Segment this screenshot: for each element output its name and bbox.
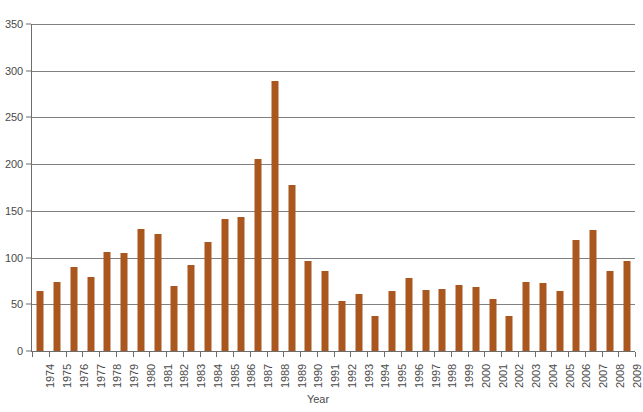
bar[interactable]: [271, 81, 278, 351]
x-tick-mark: [166, 352, 167, 357]
x-tick-mark: [585, 352, 586, 357]
x-tick-label: 1988: [280, 364, 291, 388]
x-tick-label: 2001: [498, 364, 509, 388]
bar-slot: [367, 24, 384, 351]
bar-slot: [267, 24, 284, 351]
x-tick-label: 1975: [62, 364, 73, 388]
bar[interactable]: [171, 286, 178, 351]
bar-slot: [183, 24, 200, 351]
bar[interactable]: [623, 261, 630, 351]
x-tick-label: 1999: [464, 364, 475, 388]
x-tick-mark: [384, 352, 385, 357]
x-tick-mark: [200, 352, 201, 357]
bar[interactable]: [456, 285, 463, 351]
x-tick-mark: [116, 352, 117, 357]
bar-slot: [66, 24, 83, 351]
x-tick-label: 2006: [581, 364, 592, 388]
bar[interactable]: [255, 159, 262, 351]
x-tick-mark: [451, 352, 452, 357]
x-tick-mark: [183, 352, 184, 357]
y-tick-label: 50: [11, 299, 23, 310]
x-axis-title: Year: [0, 393, 636, 406]
bar[interactable]: [372, 316, 379, 351]
bar[interactable]: [70, 267, 77, 351]
bar-slot: [602, 24, 619, 351]
bar-slot: [32, 24, 49, 351]
x-tick-mark: [468, 352, 469, 357]
x-tick-mark: [367, 352, 368, 357]
bar[interactable]: [221, 219, 228, 351]
x-tick-mark: [501, 352, 502, 357]
bar-slot: [434, 24, 451, 351]
x-tick-label: 1985: [230, 364, 241, 388]
bar[interactable]: [238, 217, 245, 351]
x-tick-label: 2004: [548, 364, 559, 388]
y-tick-label: 200: [5, 159, 23, 170]
bar[interactable]: [188, 265, 195, 351]
bar-slot: [401, 24, 418, 351]
bar[interactable]: [338, 301, 345, 351]
bar[interactable]: [439, 289, 446, 351]
x-tick-label: 2003: [531, 364, 542, 388]
bar[interactable]: [322, 271, 329, 351]
x-tick-label: 2002: [514, 364, 525, 388]
bar[interactable]: [389, 291, 396, 351]
bar-slot: [300, 24, 317, 351]
bar[interactable]: [422, 290, 429, 351]
bar[interactable]: [154, 234, 161, 351]
x-tick-mark: [267, 352, 268, 357]
bar-slot: [200, 24, 217, 351]
x-tick-mark: [618, 352, 619, 357]
y-tick-label: 0: [17, 346, 23, 357]
x-tick-label: 1987: [263, 364, 274, 388]
bar-slot: [82, 24, 99, 351]
x-tick-mark: [82, 352, 83, 357]
bar[interactable]: [37, 291, 44, 351]
bar[interactable]: [590, 230, 597, 351]
x-tick-mark: [417, 352, 418, 357]
bar[interactable]: [523, 282, 530, 351]
x-tick-label: 1986: [246, 364, 257, 388]
bar[interactable]: [606, 271, 613, 351]
bar-series: [32, 24, 635, 351]
bar-slot: [618, 24, 635, 351]
bar-slot: [317, 24, 334, 351]
bar-slot: [468, 24, 485, 351]
x-tick-mark: [133, 352, 134, 357]
bar[interactable]: [137, 229, 144, 351]
bar[interactable]: [121, 253, 128, 351]
x-tick-label: 1974: [45, 364, 56, 388]
bar[interactable]: [305, 261, 312, 351]
bar[interactable]: [87, 277, 94, 351]
bar[interactable]: [204, 242, 211, 351]
bar-slot: [133, 24, 150, 351]
bar[interactable]: [556, 291, 563, 351]
bar[interactable]: [54, 282, 61, 351]
bar-slot: [233, 24, 250, 351]
x-tick-label: 1998: [447, 364, 458, 388]
x-tick-mark: [635, 352, 636, 357]
bar[interactable]: [355, 294, 362, 351]
x-tick-label: 1994: [380, 364, 391, 388]
y-axis: 050100150200250300350: [0, 0, 30, 412]
bar[interactable]: [472, 287, 479, 351]
bar[interactable]: [539, 283, 546, 351]
plot-area: [32, 24, 635, 351]
bar[interactable]: [489, 299, 496, 351]
x-tick-mark: [551, 352, 552, 357]
bar[interactable]: [104, 252, 111, 351]
bar-slot: [451, 24, 468, 351]
x-tick-label: 1984: [213, 364, 224, 388]
bar-slot: [585, 24, 602, 351]
x-tick-label: 1982: [179, 364, 190, 388]
bar[interactable]: [405, 278, 412, 351]
bar[interactable]: [573, 240, 580, 351]
bar[interactable]: [506, 316, 513, 351]
bar[interactable]: [288, 185, 295, 351]
x-tick-label: 1991: [330, 364, 341, 388]
y-tick-label: 350: [5, 19, 23, 30]
bar-slot: [384, 24, 401, 351]
bar-slot: [216, 24, 233, 351]
x-tick-label: 1978: [112, 364, 123, 388]
x-axis-ticks: [32, 352, 635, 357]
